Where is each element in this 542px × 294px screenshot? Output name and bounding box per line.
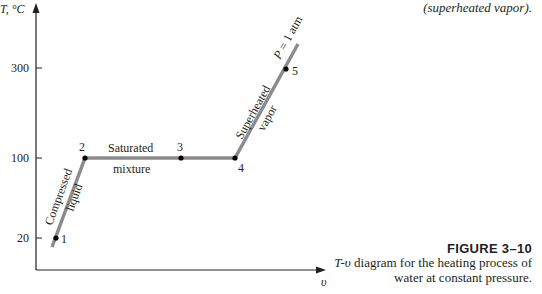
point-label-3: 3 [177, 140, 183, 154]
figure-caption: T-υ diagram for the heating process of w… [312, 255, 532, 285]
top-caption-fragment: (superheated vapor). [423, 0, 532, 16]
state-point-4 [232, 155, 237, 160]
figure-number: FIGURE 3–10 [447, 241, 532, 256]
tick-label-20: 20 [17, 231, 29, 245]
state-point-2 [82, 155, 87, 160]
region-label-mixture: mixture [113, 162, 150, 176]
caption-text: diagram for the heating process of water… [351, 255, 532, 285]
tick-label-100: 100 [11, 151, 29, 165]
state-point-5 [283, 66, 288, 71]
y-axis-arrow-icon [33, 3, 40, 13]
point-label-1: 1 [61, 232, 67, 246]
region-label-saturated: Saturated [108, 141, 153, 155]
point-label-5: 5 [292, 64, 298, 78]
tick-label-300: 300 [11, 61, 29, 75]
point-label-2: 2 [79, 140, 85, 154]
point-label-4: 4 [238, 161, 244, 175]
pressure-value: = 1 atm [274, 13, 306, 55]
y-axis-label: T, °C [0, 2, 26, 16]
process-line [52, 44, 298, 247]
caption-symbol: T-υ [334, 255, 351, 270]
state-point-1 [53, 235, 58, 240]
state-point-3 [178, 155, 183, 160]
pressure-annotation: P = 1 atm [270, 13, 306, 62]
